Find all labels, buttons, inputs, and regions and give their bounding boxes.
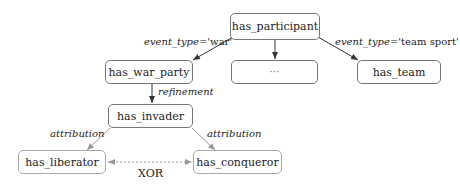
label-attribution-right: attribution [207, 128, 262, 139]
node-label: has_team [373, 66, 426, 79]
node-label: has_participant [232, 20, 318, 33]
node-label: has_invader [117, 110, 184, 123]
label-key: event_type [144, 36, 199, 47]
label-value: ='team sport' [390, 36, 459, 47]
node-has-conqueror: has_conqueror [193, 150, 282, 174]
label-xor: XOR [138, 167, 163, 180]
label-value: ='war' [199, 36, 232, 47]
node-ellipsis: ··· [231, 60, 318, 84]
node-has-invader: has_invader [108, 104, 193, 128]
node-has-team: has_team [357, 60, 441, 84]
node-has-liberator: has_liberator [18, 150, 106, 174]
node-has-war-party: has_war_party [105, 60, 193, 84]
node-label: has_liberator [25, 156, 99, 169]
node-label: has_conqueror [196, 156, 278, 169]
label-key: event_type [335, 36, 390, 47]
node-label: has_war_party [108, 66, 189, 79]
node-label: ··· [269, 66, 280, 79]
label-event-type-war: event_type='war' [144, 36, 232, 47]
label-event-type-team: event_type='team sport' [335, 36, 459, 47]
label-attribution-left: attribution [50, 128, 105, 139]
node-has-participant: has_participant [230, 13, 320, 40]
label-refinement: refinement [158, 86, 214, 97]
